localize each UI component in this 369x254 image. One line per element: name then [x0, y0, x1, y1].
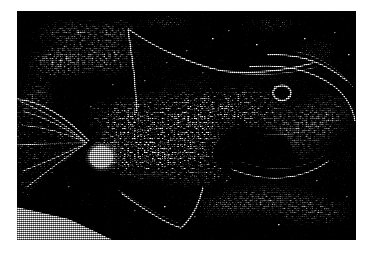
head-profile: [249, 66, 355, 121]
scanline-screen: [17, 11, 356, 240]
plate-background: [17, 11, 356, 240]
body-scales: [83, 83, 293, 189]
back-contour: [267, 51, 353, 87]
dust-specks: [60, 30, 350, 226]
pelvic-fin-edge: [231, 123, 329, 178]
photograph-plate: [17, 11, 356, 240]
fish-body: [89, 63, 356, 210]
halftone-screen: [17, 11, 356, 240]
image-canvas: [0, 0, 369, 254]
background-speckle: [17, 14, 341, 123]
caudal-fin: [17, 99, 89, 199]
dorsal-fin: [128, 29, 317, 111]
bright-wedge: [17, 207, 113, 240]
fish-artwork: [17, 11, 356, 240]
eye: [273, 86, 291, 101]
anal-fin: [117, 187, 203, 228]
film-grain: [17, 11, 356, 240]
ventral-speckle: [188, 89, 356, 229]
caudal-peduncle-highlight: [84, 139, 127, 173]
